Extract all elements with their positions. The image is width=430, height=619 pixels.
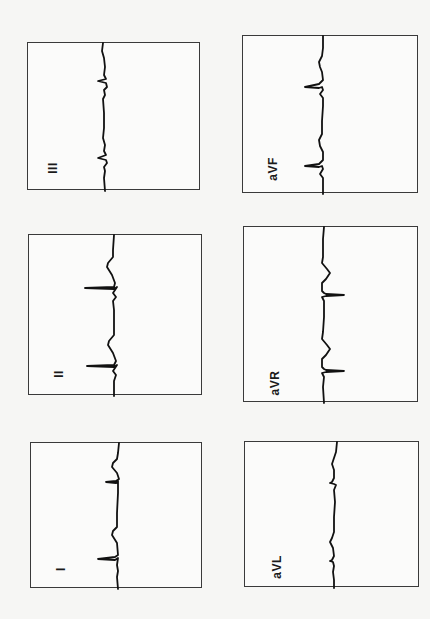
- lead-label-avr: aVR: [268, 371, 282, 396]
- lead-label-avl: aVL: [270, 555, 284, 579]
- lead-ii-panel: II: [28, 234, 202, 395]
- lead-label-i: I: [54, 567, 68, 571]
- lead-avl-panel: aVL: [244, 441, 419, 587]
- lead-avf-panel: aVF: [242, 35, 418, 193]
- lead-iii-panel: III: [27, 42, 200, 190]
- lead-label-iii: III: [46, 162, 60, 174]
- lead-avr-panel: aVR: [243, 226, 418, 402]
- lead-i-panel: I: [30, 442, 202, 588]
- lead-label-ii: II: [52, 370, 66, 378]
- lead-label-avf: aVF: [266, 157, 280, 181]
